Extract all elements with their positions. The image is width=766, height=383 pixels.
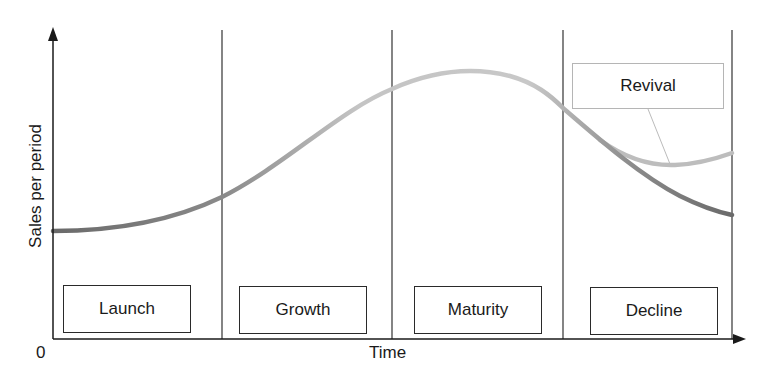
revival-curve	[600, 140, 732, 165]
stage-label: Decline	[626, 301, 683, 321]
stage-label: Maturity	[448, 300, 508, 320]
stage-growth: Growth	[239, 286, 367, 334]
revival-label: Revival	[620, 76, 676, 96]
stage-decline: Decline	[590, 287, 718, 335]
stage-maturity: Maturity	[414, 286, 542, 334]
stage-label: Launch	[99, 299, 155, 319]
stage-label: Growth	[276, 300, 331, 320]
stage-launch: Launch	[63, 285, 191, 333]
revival-label-box: Revival	[572, 63, 724, 109]
y-axis-label: Sales per period	[26, 124, 46, 248]
x-axis-label: Time	[369, 343, 406, 363]
x-axis-arrow-icon	[733, 334, 746, 344]
origin-label: 0	[36, 343, 45, 363]
revival-pointer-line	[648, 109, 670, 164]
y-axis-arrow-icon	[48, 27, 58, 41]
